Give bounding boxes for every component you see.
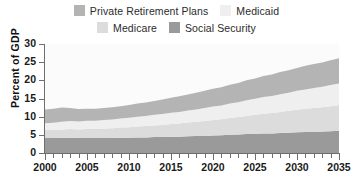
x-tick-2014 bbox=[163, 154, 164, 158]
y-tick-label-0: 0 bbox=[16, 146, 36, 158]
x-tick-2009 bbox=[121, 154, 122, 158]
y-tick-label-15: 15 bbox=[16, 92, 36, 104]
legend-swatch-medicare bbox=[97, 22, 108, 33]
x-tick-2022 bbox=[230, 154, 231, 158]
x-tick-2010 bbox=[129, 154, 130, 160]
x-tick-label-2020: 2020 bbox=[201, 161, 224, 173]
legend-item-private-retirement-plans: Private Retirement Plans bbox=[74, 5, 209, 17]
chart-figure: Private Retirement Plans Medicaid Medica… bbox=[0, 0, 353, 182]
x-tick-2034 bbox=[331, 154, 332, 158]
legend-item-social-security: Social Security bbox=[169, 22, 256, 34]
legend-label-medicare: Medicare bbox=[113, 22, 157, 34]
y-tick-20 bbox=[39, 80, 44, 81]
chart-legend: Private Retirement Plans Medicaid Medica… bbox=[0, 2, 353, 36]
x-tick-label-2035: 2035 bbox=[327, 161, 350, 173]
x-tick-label-2005: 2005 bbox=[75, 161, 98, 173]
x-tick-2027 bbox=[272, 154, 273, 158]
y-tick-0 bbox=[39, 153, 44, 154]
x-tick-label-2015: 2015 bbox=[159, 161, 182, 173]
legend-row-1: Private Retirement Plans Medicaid bbox=[0, 2, 353, 19]
x-tick-2002 bbox=[62, 154, 63, 158]
legend-swatch-medicaid bbox=[220, 5, 231, 16]
x-tick-2012 bbox=[146, 154, 147, 158]
x-tick-2020 bbox=[213, 154, 214, 160]
x-tick-2024 bbox=[247, 154, 248, 158]
legend-label-private-retirement-plans: Private Retirement Plans bbox=[90, 5, 209, 17]
x-tick-2008 bbox=[112, 154, 113, 158]
x-tick-label-2025: 2025 bbox=[243, 161, 266, 173]
stacked-area-svg bbox=[45, 44, 339, 153]
plot-area bbox=[45, 44, 339, 153]
legend-swatch-private-retirement-plans bbox=[74, 5, 85, 16]
x-tick-2035 bbox=[339, 154, 340, 160]
y-axis-line bbox=[44, 44, 45, 154]
legend-item-medicaid: Medicaid bbox=[220, 5, 279, 17]
y-tick-label-10: 10 bbox=[16, 110, 36, 122]
x-tick-2015 bbox=[171, 154, 172, 160]
legend-label-social-security: Social Security bbox=[185, 22, 256, 34]
y-tick-15 bbox=[39, 99, 44, 100]
x-tick-2029 bbox=[289, 154, 290, 158]
x-tick-label-2000: 2000 bbox=[33, 161, 56, 173]
x-tick-2000 bbox=[45, 154, 46, 160]
x-tick-label-2010: 2010 bbox=[117, 161, 140, 173]
x-tick-2006 bbox=[95, 154, 96, 158]
x-tick-2026 bbox=[263, 154, 264, 158]
x-tick-2019 bbox=[205, 154, 206, 158]
y-tick-5 bbox=[39, 135, 44, 136]
x-axis-line bbox=[44, 153, 340, 154]
y-axis-labels: 051015202530 bbox=[12, 44, 36, 154]
x-tick-2004 bbox=[79, 154, 80, 158]
x-tick-2030 bbox=[297, 154, 298, 160]
y-tick-label-25: 25 bbox=[16, 55, 36, 67]
y-tick-30 bbox=[39, 44, 44, 45]
x-tick-2007 bbox=[104, 154, 105, 158]
x-tick-2025 bbox=[255, 154, 256, 160]
x-tick-2032 bbox=[314, 154, 315, 158]
legend-row-2: Medicare Social Security bbox=[0, 19, 353, 36]
x-tick-2018 bbox=[196, 154, 197, 158]
x-tick-2028 bbox=[280, 154, 281, 158]
x-tick-2021 bbox=[221, 154, 222, 158]
y-tick-25 bbox=[39, 62, 44, 63]
y-tick-label-20: 20 bbox=[16, 73, 36, 85]
x-tick-2013 bbox=[154, 154, 155, 158]
legend-swatch-social-security bbox=[169, 22, 180, 33]
legend-label-medicaid: Medicaid bbox=[236, 5, 279, 17]
legend-item-medicare: Medicare bbox=[97, 22, 157, 34]
x-tick-2017 bbox=[188, 154, 189, 158]
y-tick-10 bbox=[39, 117, 44, 118]
y-tick-label-5: 5 bbox=[16, 128, 36, 140]
x-tick-2016 bbox=[179, 154, 180, 158]
x-tick-2003 bbox=[70, 154, 71, 158]
x-tick-label-2030: 2030 bbox=[285, 161, 308, 173]
x-tick-2031 bbox=[305, 154, 306, 158]
y-tick-label-30: 30 bbox=[16, 37, 36, 49]
x-tick-2033 bbox=[322, 154, 323, 158]
x-tick-2001 bbox=[53, 154, 54, 158]
x-tick-2023 bbox=[238, 154, 239, 158]
x-tick-2005 bbox=[87, 154, 88, 160]
x-tick-2011 bbox=[137, 154, 138, 158]
